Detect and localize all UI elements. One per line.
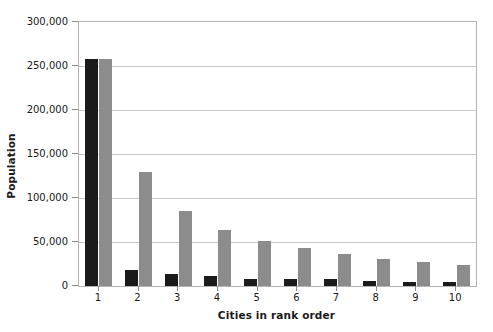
x-tick-label: 9 <box>395 292 435 303</box>
x-tick-label: 5 <box>237 292 277 303</box>
bar-dark-series-8 <box>363 281 376 286</box>
x-tick-label: 10 <box>435 292 475 303</box>
x-tick-mark <box>376 286 377 291</box>
y-tick-label: 300,000 <box>0 16 68 27</box>
gridline <box>79 66 476 67</box>
y-tick-label: 0 <box>0 280 68 291</box>
x-tick-mark <box>177 286 178 291</box>
plot-area <box>78 21 477 287</box>
bar-light-series-9 <box>417 262 430 286</box>
x-tick-mark <box>296 286 297 291</box>
bar-light-series-5 <box>258 241 271 286</box>
bar-light-series-4 <box>218 230 231 286</box>
bar-dark-series-9 <box>403 282 416 286</box>
x-tick-mark <box>217 286 218 291</box>
x-tick-label: 4 <box>197 292 237 303</box>
y-tick-mark <box>72 153 78 154</box>
x-tick-label: 8 <box>356 292 396 303</box>
x-tick-mark <box>336 286 337 291</box>
y-tick-label: 250,000 <box>0 60 68 71</box>
bar-light-series-10 <box>457 265 470 286</box>
population-rank-bar-chart: Population Cities in rank order 050,0001… <box>0 0 493 332</box>
x-tick-label: 7 <box>316 292 356 303</box>
gridline <box>79 110 476 111</box>
bar-dark-series-10 <box>443 282 456 286</box>
bar-light-series-3 <box>179 211 192 286</box>
y-tick-mark <box>72 21 78 22</box>
x-tick-mark <box>138 286 139 291</box>
bar-dark-series-2 <box>125 270 138 286</box>
x-tick-mark <box>415 286 416 291</box>
x-tick-mark <box>455 286 456 291</box>
y-tick-mark <box>72 285 78 286</box>
y-tick-mark <box>72 109 78 110</box>
y-tick-mark <box>72 65 78 66</box>
bar-light-series-6 <box>298 248 311 286</box>
bar-dark-series-5 <box>244 279 257 286</box>
x-tick-label: 1 <box>78 292 118 303</box>
y-tick-label: 100,000 <box>0 192 68 203</box>
bar-light-series-8 <box>377 259 390 286</box>
x-axis-title: Cities in rank order <box>78 309 475 321</box>
y-tick-mark <box>72 197 78 198</box>
bar-dark-series-7 <box>324 279 337 286</box>
y-tick-label: 150,000 <box>0 148 68 159</box>
y-tick-label: 200,000 <box>0 104 68 115</box>
y-tick-mark <box>72 241 78 242</box>
x-tick-mark <box>257 286 258 291</box>
bar-dark-series-1 <box>85 59 98 286</box>
bar-dark-series-4 <box>204 276 217 286</box>
x-tick-mark <box>98 286 99 291</box>
bar-light-series-7 <box>338 254 351 286</box>
gridline <box>79 154 476 155</box>
bar-light-series-2 <box>139 172 152 286</box>
bar-dark-series-3 <box>165 274 178 286</box>
x-tick-label: 3 <box>157 292 197 303</box>
x-tick-label: 2 <box>118 292 158 303</box>
bar-light-series-1 <box>99 59 112 286</box>
x-tick-label: 6 <box>276 292 316 303</box>
y-tick-label: 50,000 <box>0 236 68 247</box>
bar-dark-series-6 <box>284 279 297 286</box>
